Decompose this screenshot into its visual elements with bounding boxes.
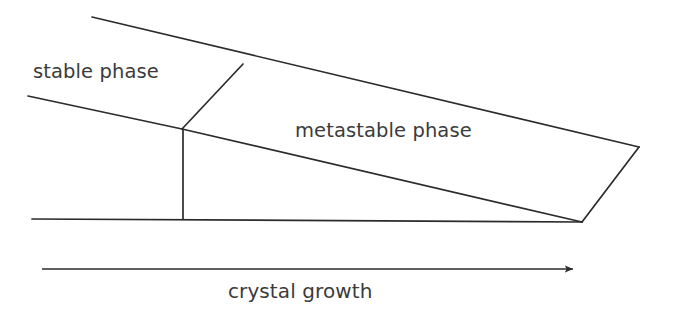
figure-root: stable phase metastable phase crystal gr…: [0, 0, 676, 318]
metastable-phase-label: metastable phase: [295, 121, 472, 141]
short-diagonal-divider: [182, 64, 243, 129]
middle-boundary-line-left: [28, 96, 182, 129]
middle-boundary-line-right: [182, 129, 582, 222]
stable-phase-label: stable phase: [33, 62, 159, 82]
baseline-horizontal: [32, 219, 582, 222]
phase-diagram-svg: [0, 0, 676, 318]
right-closing-edge: [582, 147, 639, 222]
crystal-growth-label: crystal growth: [228, 281, 372, 301]
